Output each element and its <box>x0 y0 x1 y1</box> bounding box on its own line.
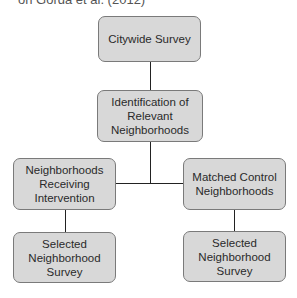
node-selected-survey-left: Selected Neighborhood Survey <box>13 232 116 283</box>
node-control-neighborhoods: Matched Control Neighborhoods <box>183 158 286 210</box>
node-identification-neighborhoods: Identification of Relevant Neighborhoods <box>97 90 203 142</box>
connector-citywide-to-identification <box>150 62 151 90</box>
node-label: Identification of Relevant Neighborhoods <box>102 95 198 137</box>
node-citywide-survey: Citywide Survey <box>98 16 201 62</box>
node-selected-survey-right: Selected Neighborhood Survey <box>183 231 286 282</box>
connector-identification-trunk <box>150 142 151 184</box>
connector-horizontal-branch <box>116 183 183 184</box>
connector-intervention-to-survey <box>65 210 66 232</box>
node-label: Selected Neighborhood Survey <box>18 237 111 279</box>
connector-control-to-survey <box>234 210 235 231</box>
node-intervention-neighborhoods: Neighborhoods Receiving Intervention <box>13 158 116 210</box>
node-label: Matched Control Neighborhoods <box>188 170 281 198</box>
node-label: Selected Neighborhood Survey <box>188 236 281 278</box>
node-label: Neighborhoods Receiving Intervention <box>18 163 111 205</box>
figure-source-caption: on Gorda et al. (2012) <box>18 0 145 7</box>
node-label: Citywide Survey <box>108 32 190 46</box>
